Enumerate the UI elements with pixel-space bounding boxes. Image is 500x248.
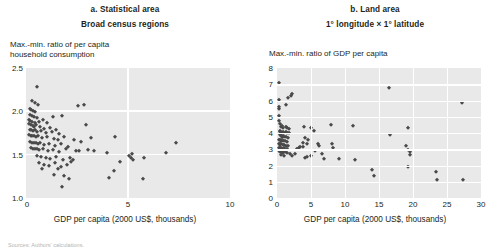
- panel-a: a. Statistical area Broad census regions…: [0, 0, 250, 248]
- scatter-point: [112, 135, 117, 140]
- scatter-point: [46, 142, 51, 147]
- panel-b-xtick: 25: [443, 200, 452, 209]
- scatter-point: [50, 115, 55, 120]
- panel-b-xtick: 15: [375, 200, 384, 209]
- scatter-point: [371, 174, 376, 179]
- panel-b-ytick: 2: [259, 161, 273, 170]
- scatter-point: [51, 172, 56, 177]
- panel-b-y-axis-label: Max.-min. ratio of GDP per capita: [269, 49, 459, 59]
- scatter-point: [106, 176, 111, 181]
- panel-b-title: b. Land area: [250, 5, 500, 14]
- panel-b-ytick: 7: [259, 80, 273, 89]
- scatter-point: [44, 135, 49, 140]
- scatter-point: [321, 156, 326, 161]
- panel-b-subtitle: 1° longitude × 1° latitude: [250, 20, 500, 29]
- scatter-point: [117, 159, 122, 164]
- scatter-point: [84, 123, 89, 128]
- scatter-point: [329, 123, 334, 128]
- scatter-point: [89, 136, 94, 141]
- scatter-point: [301, 124, 306, 129]
- panel-a-y-axis-label: Max.-min. ratio of per capita household …: [10, 40, 190, 60]
- gridline-v: [345, 68, 346, 198]
- panel-b-xtick: 20: [409, 200, 418, 209]
- scatter-point: [53, 161, 58, 166]
- scatter-point: [66, 177, 71, 182]
- panel-a-ytick: 2.0: [1, 107, 23, 116]
- scatter-point: [82, 103, 87, 108]
- source-note: Sources: Authors' calculations.: [8, 242, 494, 248]
- scatter-point: [406, 125, 411, 130]
- scatter-point: [142, 156, 147, 161]
- gridline-v: [413, 68, 414, 198]
- scatter-point: [277, 106, 282, 111]
- scatter-point: [58, 142, 63, 147]
- panel-a-title: a. Statistical area: [0, 5, 250, 14]
- panel-a-x-axis-label: GDP per capita (2000 US$, thousands): [0, 215, 250, 224]
- scatter-point: [35, 103, 40, 108]
- scatter-point: [79, 139, 84, 144]
- scatter-point: [36, 161, 41, 166]
- gridline-v: [379, 68, 380, 198]
- scatter-point: [316, 144, 321, 149]
- panel-a-ytick: 1.5: [1, 150, 23, 159]
- scatter-point: [55, 167, 60, 172]
- scatter-point: [352, 157, 357, 162]
- scatter-point: [174, 140, 179, 145]
- scatter-point: [59, 113, 64, 118]
- gridline-v: [127, 68, 128, 198]
- scatter-point: [61, 174, 66, 179]
- scatter-point: [408, 153, 413, 158]
- scatter-point: [35, 85, 40, 90]
- scatter-point: [40, 166, 45, 171]
- panel-b-ytick: 6: [259, 96, 273, 105]
- scatter-point: [351, 123, 356, 128]
- scatter-point: [50, 148, 55, 153]
- scatter-point: [387, 85, 392, 90]
- scatter-point: [64, 163, 69, 168]
- scatter-point: [336, 157, 341, 162]
- panel-b-xtick: 5: [309, 200, 313, 209]
- panel-a-xtick: 10: [226, 200, 235, 209]
- figure-root: a. Statistical area Broad census regions…: [0, 0, 500, 248]
- scatter-point: [76, 104, 81, 109]
- scatter-point: [41, 147, 46, 152]
- panel-a-ytick: 2.5: [1, 64, 23, 73]
- panel-a-plot-area: [26, 68, 230, 198]
- panel-a-ytick: 1.0: [1, 194, 23, 203]
- panel-b-ytick: 1: [259, 177, 273, 186]
- scatter-point: [47, 164, 52, 169]
- panel-b-xtick: 10: [341, 200, 350, 209]
- panel-b-xtick: 30: [477, 200, 486, 209]
- panel-b-xtick: 0: [275, 200, 279, 209]
- scatter-point: [141, 177, 146, 182]
- scatter-point: [49, 130, 54, 135]
- scatter-point: [434, 169, 439, 174]
- scatter-point: [62, 135, 67, 140]
- scatter-point: [72, 138, 77, 143]
- gridline-v: [311, 68, 312, 198]
- panel-b-ytick: 4: [259, 129, 273, 138]
- scatter-point: [63, 147, 68, 152]
- panel-b-plot-area: [277, 68, 481, 198]
- panel-b-ytick: 3: [259, 145, 273, 154]
- panel-b-ytick: 8: [259, 64, 273, 73]
- panel-a-xtick: 5: [126, 200, 130, 209]
- panel-a-subtitle: Broad census regions: [0, 20, 250, 29]
- scatter-point: [54, 155, 59, 160]
- gridline-v: [447, 68, 448, 198]
- panel-a-xtick: 0: [25, 200, 29, 209]
- scatter-point: [111, 169, 116, 174]
- panel-b-ytick: 0: [259, 194, 273, 203]
- scatter-point: [56, 131, 61, 136]
- scatter-point: [48, 157, 53, 162]
- panel-b-x-axis-label: GDP per capita (2000 US$, thousands): [250, 215, 500, 224]
- scatter-point: [283, 103, 288, 108]
- scatter-point: [369, 168, 374, 173]
- scatter-point: [60, 157, 65, 162]
- scatter-point: [131, 157, 136, 162]
- scatter-point: [59, 184, 64, 189]
- scatter-point: [38, 129, 43, 134]
- scatter-point: [86, 148, 91, 153]
- panel-b-ytick: 5: [259, 112, 273, 121]
